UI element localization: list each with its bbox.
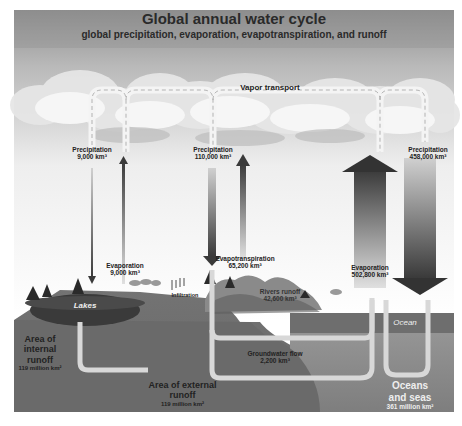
evap-ocean-label: Evaporation 502,800 km³ <box>340 264 400 279</box>
diagram-title: Global annual water cycle global precipi… <box>14 10 454 40</box>
label-line: Area of <box>10 334 70 344</box>
internal-runoff-label: Area of internal runoff 119 million km² <box>10 334 70 372</box>
lakes-label: Lakes <box>60 301 110 310</box>
label-name: Precipitation <box>180 146 246 153</box>
precip-land-label: Precipitation 110,000 km³ <box>180 146 246 161</box>
label-name: Precipitation <box>395 146 461 153</box>
label-value: 2,200 km³ <box>235 357 315 364</box>
label-name: Evapotranspiration <box>205 255 285 262</box>
precip-internal-label: Precipitation 9,000 km³ <box>62 146 122 161</box>
label-line: and seas <box>365 392 455 404</box>
label-line: runoff <box>10 355 70 365</box>
title: Global annual water cycle <box>14 10 454 27</box>
label-value: 42,600 km³ <box>250 295 310 302</box>
label-value: 65,200 km³ <box>205 262 285 269</box>
vapor-transport-label: Vapor transport <box>220 83 320 92</box>
water-cycle-diagram: Global annual water cycle global precipi… <box>0 0 462 426</box>
infiltration-label: Infiltration <box>160 292 210 298</box>
label-value: 119 million km² <box>135 401 230 408</box>
label-value: 9,000 km³ <box>62 153 122 160</box>
label-line: Oceans <box>365 380 455 392</box>
external-runoff-label: Area of external runoff 119 million km² <box>135 380 230 408</box>
label-value: 119 million km² <box>10 365 70 372</box>
label-name: Groundwater flow <box>235 350 315 357</box>
label-name: Precipitation <box>62 146 122 153</box>
oceans-seas-label: Oceans and seas 361 million km² <box>365 380 455 410</box>
evap-internal-label: Evaporation 9,000 km³ <box>95 262 155 277</box>
ocean-label: Ocean <box>375 318 435 327</box>
label-value: 502,800 km³ <box>340 271 400 278</box>
label-line: internal <box>10 344 70 354</box>
label-name: Evaporation <box>95 262 155 269</box>
evapotranspiration-label: Evapotranspiration 65,200 km³ <box>205 255 285 270</box>
label-line: Area of external <box>135 380 230 390</box>
label-name: Evaporation <box>340 264 400 271</box>
label-value: 9,000 km³ <box>95 269 155 276</box>
label-value: 458,000 km³ <box>395 153 461 160</box>
subtitle: global precipitation, evaporation, evapo… <box>14 29 454 40</box>
label-line: runoff <box>135 390 230 400</box>
label-name: Rivers runoff <box>250 288 310 295</box>
label-value: 361 million km² <box>365 403 455 410</box>
label-value: 110,000 km³ <box>180 153 246 160</box>
rivers-runoff-label: Rivers runoff 42,600 km³ <box>250 288 310 303</box>
precip-ocean-label: Precipitation 458,000 km³ <box>395 146 461 161</box>
groundwater-flow-label: Groundwater flow 2,200 km³ <box>235 350 315 365</box>
